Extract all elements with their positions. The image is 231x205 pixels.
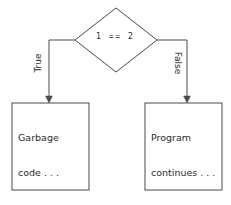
garbage-node-line2: code . . . — [18, 167, 59, 179]
continue-node-line2: continues . . . — [151, 167, 215, 179]
edge-label-false: False — [173, 52, 183, 75]
edge-label-true: True — [33, 53, 43, 72]
continue-node-label: Program continues . . . — [151, 108, 215, 203]
garbage-node-label: Garbage code . . . — [18, 108, 59, 203]
false-branch-arrowhead — [184, 96, 191, 103]
garbage-node-line1: Garbage — [18, 132, 59, 144]
true-branch-arrowhead — [46, 96, 53, 103]
true-branch-connector — [49, 40, 75, 98]
flowchart-diagram: 1 == 2 True False Garbage code . . . Pro… — [0, 0, 231, 205]
continue-node-line1: Program — [151, 132, 215, 144]
decision-condition-text: 1 == 2 — [96, 32, 135, 42]
